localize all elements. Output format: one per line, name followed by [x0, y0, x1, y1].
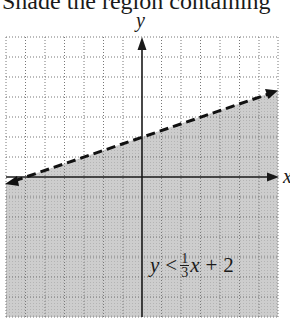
inequality-label: y < 1 3 x + 2 [150, 252, 234, 279]
inequality-variable: x [190, 253, 199, 278]
slope-fraction: 1 3 [180, 252, 189, 279]
fraction-numerator: 1 [181, 252, 188, 265]
fraction-denominator: 3 [181, 266, 188, 279]
x-axis-label: x [282, 165, 290, 187]
inequality-operator: < [165, 253, 177, 278]
inequality-constant: 2 [223, 253, 234, 278]
inequality-lhs: y [150, 253, 159, 278]
y-axis-arrow-icon [138, 37, 147, 50]
y-axis-label: y [134, 9, 145, 32]
inequality-plus: + [206, 253, 218, 278]
coordinate-graph: y x [0, 0, 290, 327]
